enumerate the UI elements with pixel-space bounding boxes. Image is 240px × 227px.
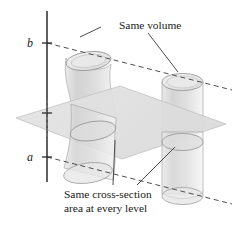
vertical-axis <box>42 11 52 182</box>
leader-line-to-right-solid-top <box>148 33 178 72</box>
axis-label-a: a <box>27 150 33 164</box>
cavalieri-principle-figure: b a Same volume Same cross-section area … <box>0 0 240 227</box>
right-solid-lower <box>162 132 203 205</box>
leader-line-to-left-solid-top <box>80 27 101 37</box>
right-solid-cross-section <box>162 133 203 150</box>
axis-label-b: b <box>27 36 33 50</box>
same-volume-label: Same volume <box>119 19 181 31</box>
figure-canvas: b a Same volume Same cross-section area … <box>0 0 240 227</box>
same-cross-section-label-line1: Same cross-section <box>64 188 152 200</box>
same-cross-section-label-line2: area at every level <box>64 202 147 214</box>
